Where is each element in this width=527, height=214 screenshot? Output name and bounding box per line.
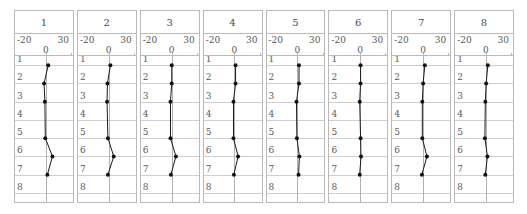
panel-2: 2-2030012345678 xyxy=(77,10,137,203)
data-point-row-1 xyxy=(108,63,112,67)
x-axis-label-max: 30 xyxy=(498,35,509,45)
data-point-row-2 xyxy=(169,81,173,85)
data-point-row-5 xyxy=(359,136,363,140)
data-point-row-2 xyxy=(421,81,425,85)
data-point-row-2 xyxy=(296,81,300,85)
data-point-row-1 xyxy=(46,63,50,67)
data-point-row-3 xyxy=(294,100,298,104)
panel-plot-4: 12345678 xyxy=(204,56,262,202)
data-point-row-6 xyxy=(486,154,490,158)
data-point-row-6 xyxy=(50,154,54,158)
trellis-dot-plot-figure: 1-20300123456782-20300123456783-20300123… xyxy=(0,0,527,214)
data-point-row-3 xyxy=(43,100,47,104)
data-point-row-3 xyxy=(231,100,235,104)
series-4 xyxy=(204,56,262,202)
panel-4: 4-2030012345678 xyxy=(203,10,263,203)
series-1 xyxy=(15,56,73,202)
data-point-row-5 xyxy=(106,136,110,140)
panel-strip: 1-20300123456782-20300123456783-20300123… xyxy=(14,10,514,203)
x-axis-label-min: -20 xyxy=(394,35,409,45)
series-3 xyxy=(141,56,199,202)
data-point-row-5 xyxy=(294,136,298,140)
panel-8: 8-2030012345678 xyxy=(454,10,514,203)
series-5 xyxy=(267,56,325,202)
panel-x-axis-7: -20300 xyxy=(392,34,450,56)
panel-title-8: 8 xyxy=(455,11,513,34)
panel-x-axis-6: -20300 xyxy=(329,34,387,56)
data-point-row-3 xyxy=(483,100,487,104)
data-point-row-6 xyxy=(359,154,363,158)
data-point-row-3 xyxy=(105,100,109,104)
series-6 xyxy=(329,56,387,202)
data-point-row-1 xyxy=(169,63,173,67)
data-point-row-3 xyxy=(358,100,362,104)
x-axis-label-min: -20 xyxy=(143,35,158,45)
x-axis-label-min: -20 xyxy=(206,35,221,45)
data-point-row-2 xyxy=(233,81,237,85)
panel-x-axis-2: -20300 xyxy=(78,34,136,56)
data-point-row-1 xyxy=(296,63,300,67)
data-point-row-5 xyxy=(483,136,487,140)
x-axis-label-min: -20 xyxy=(80,35,95,45)
data-point-row-6 xyxy=(174,154,178,158)
data-point-row-2 xyxy=(105,81,109,85)
series-line xyxy=(44,65,52,175)
data-point-row-5 xyxy=(168,136,172,140)
data-point-row-2 xyxy=(484,81,488,85)
panel-7: 7-2030012345678 xyxy=(391,10,451,203)
data-point-row-6 xyxy=(236,154,240,158)
data-point-row-7 xyxy=(106,173,110,177)
panel-title-6: 6 xyxy=(329,11,387,34)
x-axis-label-max: 30 xyxy=(120,35,131,45)
data-point-row-6 xyxy=(112,154,116,158)
x-axis-label-max: 30 xyxy=(183,35,194,45)
panel-plot-8: 12345678 xyxy=(455,56,513,202)
data-point-row-2 xyxy=(42,81,46,85)
x-axis-label-max: 30 xyxy=(372,35,383,45)
x-axis-label-min: -20 xyxy=(17,35,32,45)
data-point-row-1 xyxy=(486,63,490,67)
series-7 xyxy=(392,56,450,202)
panel-title-7: 7 xyxy=(392,11,450,34)
panel-x-axis-5: -20300 xyxy=(267,34,325,56)
data-point-row-6 xyxy=(297,154,301,158)
x-axis-label-min: -20 xyxy=(269,35,284,45)
data-point-row-5 xyxy=(421,136,425,140)
panel-x-axis-8: -20300 xyxy=(455,34,513,56)
panel-3: 3-2030012345678 xyxy=(140,10,200,203)
panel-plot-6: 12345678 xyxy=(329,56,387,202)
panel-plot-5: 12345678 xyxy=(267,56,325,202)
x-axis-label-min: -20 xyxy=(457,35,472,45)
data-point-row-7 xyxy=(483,173,487,177)
panel-title-4: 4 xyxy=(204,11,262,34)
data-point-row-1 xyxy=(423,63,427,67)
data-point-row-1 xyxy=(233,63,237,67)
panel-plot-7: 12345678 xyxy=(392,56,450,202)
data-point-row-6 xyxy=(425,154,429,158)
data-point-row-3 xyxy=(421,100,425,104)
series-2 xyxy=(78,56,136,202)
panel-title-2: 2 xyxy=(78,11,136,34)
data-point-row-7 xyxy=(232,173,236,177)
panel-plot-1: 12345678 xyxy=(15,56,73,202)
x-axis-label-max: 30 xyxy=(309,35,320,45)
data-point-row-1 xyxy=(359,63,363,67)
data-point-row-5 xyxy=(43,136,47,140)
panel-1: 1-2030012345678 xyxy=(14,10,74,203)
panel-plot-2: 12345678 xyxy=(78,56,136,202)
panel-title-1: 1 xyxy=(15,11,73,34)
data-point-row-7 xyxy=(358,173,362,177)
x-axis-label-max: 30 xyxy=(57,35,68,45)
panel-title-5: 5 xyxy=(267,11,325,34)
panel-x-axis-4: -20300 xyxy=(204,34,262,56)
series-8 xyxy=(455,56,513,202)
data-point-row-2 xyxy=(359,81,363,85)
x-axis-label-min: -20 xyxy=(331,35,346,45)
x-axis-label-max: 30 xyxy=(435,35,446,45)
panel-title-3: 3 xyxy=(141,11,199,34)
data-point-row-5 xyxy=(231,136,235,140)
panel-6: 6-2030012345678 xyxy=(328,10,388,203)
data-point-row-3 xyxy=(168,100,172,104)
data-point-row-7 xyxy=(169,173,173,177)
panel-x-axis-3: -20300 xyxy=(141,34,199,56)
